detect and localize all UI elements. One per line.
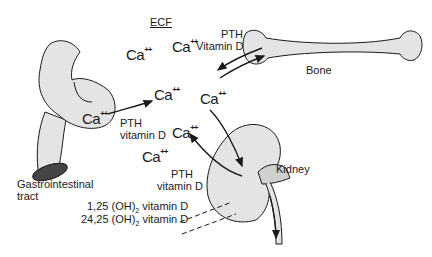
ecf-title: ECF [150,16,172,28]
metabolite-1-name: 1,25 (OH) [87,200,135,212]
calcium-ion-4: Ca++ [200,88,226,107]
metabolite-line-2 [182,214,236,234]
ion-charge: ++ [160,147,167,156]
ecf-to-bone-arrow [220,56,264,78]
bone-illustration [243,30,422,64]
calcium-ion-5: Ca++ [172,122,198,141]
calcium-ion-gi: Ca++ [82,108,108,127]
ion-symbol: Ca [82,110,100,127]
bone-label: Bone [306,64,332,76]
ion-symbol: Ca [142,148,160,165]
kidney-illustration [207,124,290,244]
kidney-vitamin-d-label: vitamin D [157,180,203,192]
ion-charge: ++ [172,85,179,94]
gi-label-line2: tract [17,190,38,202]
kidney-pth-label: PTH [171,168,193,180]
calcium-ion-6: Ca++ [142,146,168,165]
ion-symbol: Ca [126,46,144,63]
gi-pth-label: PTH [120,117,142,129]
calcium-ion-1: Ca++ [126,44,152,63]
calcium-ion-2: Ca++ [172,36,198,55]
metabolite-2-suffix: vitamin D [139,213,188,225]
ion-charge: ++ [100,109,107,118]
ion-symbol: Ca [172,38,190,55]
bone-vitamin-d-label: Vitamin D [196,40,243,52]
bone-pth-label: PTH [221,28,243,40]
ion-symbol: Ca [154,86,172,103]
diagram-artwork [0,0,432,257]
ion-symbol: Ca [172,124,190,141]
metabolite-2-label: 24,25 (OH)2 vitamin D [81,213,188,230]
metabolite-1-suffix: vitamin D [139,200,188,212]
ion-symbol: Ca [200,90,218,107]
ion-charge: ++ [218,89,225,98]
gi-vitamin-d-label: vitamin D [120,129,166,141]
gi-label-line1: Gastrointestinal [17,178,93,190]
ion-charge: ++ [144,45,151,54]
kidney-label: Kidney [276,163,310,175]
calcium-ion-3: Ca++ [154,84,180,103]
ion-charge: ++ [190,123,197,132]
metabolite-2-name: 24,25 (OH) [81,213,135,225]
